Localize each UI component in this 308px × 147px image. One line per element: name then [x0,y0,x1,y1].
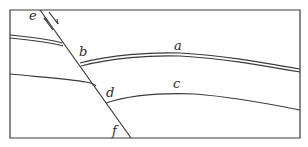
bed-c-east [106,94,300,110]
label-d: d [106,85,114,100]
fault-line [40,10,131,138]
label-c: c [173,76,181,91]
label-e: e [29,8,37,23]
fault-diagram: e b a d c f [0,0,308,147]
bed-a-west-lower [10,38,63,46]
slip-arrows-icon [44,12,58,30]
label-f: f [111,123,119,138]
bed-c-west [10,74,96,86]
label-b: b [79,44,87,59]
label-a: a [174,38,182,53]
